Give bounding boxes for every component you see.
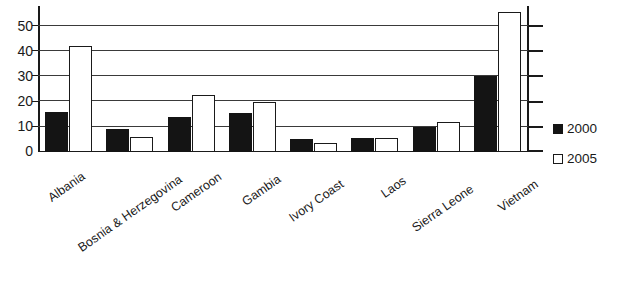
x-label-ivory-coast: Ivory Coast	[287, 178, 346, 225]
bar-2005-gambia	[253, 102, 276, 152]
right-axis-tick	[529, 75, 543, 77]
legend-swatch-icon-2005	[553, 154, 563, 164]
plot-area	[38, 6, 528, 152]
x-label-vietnam: Vietnam	[496, 178, 541, 215]
legend-swatch-icon-2000	[553, 124, 563, 134]
gridline-40	[38, 50, 528, 51]
y-tick-label-50: 50	[0, 19, 33, 33]
bar-2005-sierra-leone	[437, 122, 460, 152]
bar-chart: 50 40 30 20 10 0 Albania Bosnia & Herzeg…	[0, 0, 617, 289]
legend-label-2005: 2005	[567, 152, 597, 166]
bar-2005-cameroon	[192, 95, 215, 152]
y-tick-label-20: 20	[0, 94, 33, 108]
x-label-laos: Laos	[379, 174, 409, 200]
legend-label-2000: 2000	[567, 122, 597, 136]
y-tick-label-30: 30	[0, 69, 33, 83]
x-label-gambia: Gambia	[240, 173, 283, 209]
y-tick-label-0: 0	[0, 144, 33, 158]
bar-2005-bosnia-herzegovina	[130, 137, 153, 152]
legend-item-2005: 2005	[553, 148, 615, 170]
bar-2000-gambia	[229, 113, 252, 152]
bar-2000-vietnam	[474, 76, 497, 152]
bar-2000-laos	[351, 138, 374, 152]
bar-2005-vietnam	[498, 12, 521, 152]
right-axis-tick	[529, 126, 543, 128]
bar-2000-bosnia-herzegovina	[106, 129, 129, 152]
x-label-albania: Albania	[46, 170, 88, 205]
gridline-30	[38, 75, 528, 76]
bar-2005-laos	[375, 138, 398, 152]
right-axis-tick	[529, 50, 543, 52]
x-label-sierra-leone: Sierra Leone	[410, 183, 476, 235]
y-tick-label-40: 40	[0, 44, 33, 58]
x-axis-labels: Albania Bosnia & Herzegovina Cameroon Ga…	[38, 152, 543, 252]
bar-2000-cameroon	[168, 117, 191, 152]
x-label-bosnia: Bosnia & Herzegovina	[76, 173, 185, 255]
legend-item-2000: 2000	[553, 118, 615, 140]
gridline-20	[38, 100, 528, 101]
bar-2000-albania	[45, 112, 68, 152]
bar-2000-sierra-leone	[413, 127, 436, 152]
bar-2005-albania	[69, 46, 92, 152]
bar-2005-ivory-coast	[314, 143, 337, 152]
legend: 2000 2005	[553, 118, 615, 170]
y-tick-label-10: 10	[0, 119, 33, 133]
bar-2000-ivory-coast	[290, 139, 313, 152]
gridline-50	[38, 25, 528, 26]
right-axis-tick	[529, 25, 543, 27]
right-axis-tick	[529, 101, 543, 103]
